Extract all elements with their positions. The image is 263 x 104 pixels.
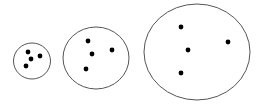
cluster-boundary-ellipse	[144, 4, 250, 100]
medium-cluster	[63, 27, 129, 89]
data-point-dot	[226, 40, 231, 45]
data-point-dot	[179, 71, 184, 76]
small-cluster	[14, 43, 51, 79]
data-point-dot	[24, 64, 29, 69]
data-point-dot	[29, 57, 34, 62]
data-point-dot	[26, 50, 31, 55]
cluster-diagram	[0, 0, 263, 104]
data-point-dot	[38, 54, 43, 59]
data-point-dot	[186, 48, 191, 53]
data-point-dot	[179, 25, 184, 30]
clusters-group	[14, 4, 251, 100]
large-cluster	[144, 4, 250, 100]
data-point-dot	[84, 67, 89, 72]
data-point-dot	[86, 39, 91, 44]
data-point-dot	[110, 48, 115, 53]
data-point-dot	[90, 52, 95, 57]
cluster-boundary-ellipse	[63, 27, 129, 89]
